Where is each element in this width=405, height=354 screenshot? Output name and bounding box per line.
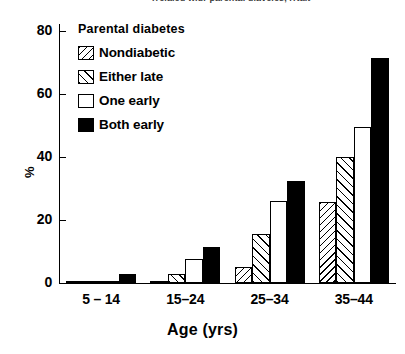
legend-swatch-either-late-icon [78,70,94,84]
bar-nondiabetic-15-24 [150,281,168,283]
bar-fill [355,128,371,282]
y-tick-label-60: 60 [10,85,52,101]
legend-item-either-late: Either late [78,65,248,88]
legend-label-both-early: Both early [99,117,164,132]
legend-swatch-both-early-icon [78,118,94,132]
legend-item-one-early: One early [78,89,248,112]
x-tick-label-35-44: 35–44 [304,291,404,307]
bar-fill [271,202,287,283]
bar-fill [120,275,136,282]
bar-fill [337,158,353,282]
bar-one-early-5-14 [101,281,119,283]
bar-fill [320,203,336,282]
bar-either-late-35-44 [336,157,354,283]
legend-item-nondiabetic: Nondiabetic [78,41,248,64]
bar-nondiabetic-35-44 [319,202,337,283]
bar-one-early-25-34 [270,201,288,284]
bar-both-early-25-34 [287,181,305,283]
bar-either-late-25-34 [252,234,270,284]
legend-label-one-early: One early [99,93,160,108]
legend-swatch-nondiabetic-icon [78,46,94,60]
legend-swatch-one-early-icon [78,94,94,108]
y-tick-label-20: 20 [10,211,52,227]
bar-either-late-5-14 [84,281,102,283]
x-axis-title: Age (yrs) [0,321,405,339]
bar-one-early-15-24 [185,259,203,283]
bar-fill [236,268,252,283]
legend-label-either-late: Either late [99,69,163,84]
bar-either-late-15-24 [168,274,186,283]
bar-chart-figure: rreiaieu wiur parental uiaveies, rrtait … [0,0,405,354]
legend-label-nondiabetic: Nondiabetic [99,45,175,60]
bar-fill [288,182,304,282]
cropped-caption-text: rreiaieu wiur parental uiaveies, rrtait [152,0,404,4]
bar-fill [169,275,185,282]
y-tick-mark-0 [60,283,66,284]
y-axis-title: % [22,166,37,178]
legend-title: Parental diabetes [78,22,248,36]
bar-nondiabetic-5-14 [66,281,84,283]
bar-one-early-35-44 [354,127,372,283]
legend-item-both-early: Both early [78,113,248,136]
bar-both-early-35-44 [371,58,389,283]
y-tick-label-80: 80 [10,22,52,38]
bar-both-early-5-14 [119,274,137,283]
bar-fill [186,260,202,282]
bar-both-early-15-24 [203,247,221,283]
y-tick-label-40: 40 [10,148,52,164]
legend: Parental diabetes Nondiabetic Either lat… [78,22,248,137]
y-tick-label-0: 0 [10,274,52,290]
bar-fill [204,248,220,282]
bar-fill [253,235,269,283]
x-axis-line [59,283,396,284]
bar-fill [372,59,388,282]
bar-nondiabetic-25-34 [235,267,253,284]
